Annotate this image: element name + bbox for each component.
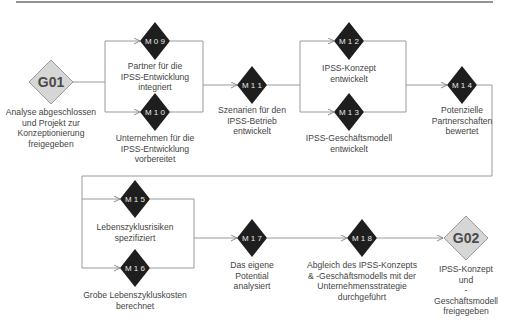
milestone-m17-label: Das eigene Potential analysiert — [230, 260, 273, 292]
milestone-m15[interactable]: M 1 5 — [120, 180, 150, 218]
milestone-m11-label: Szenarien für den IPSS-Betrieb entwickel… — [218, 105, 286, 137]
milestone-m15-label: Lebenszyklusrisiken spezifiziert — [97, 222, 174, 243]
milestone-m18-label: Abgleich des IPSS-Konzepts & -Geschäftsm… — [307, 260, 417, 302]
milestone-m12-code: M 1 2 — [339, 37, 360, 46]
milestone-m13-code: M 1 3 — [339, 108, 360, 117]
milestone-m12-label: IPSS-Konzept entwickelt — [322, 63, 376, 84]
gate-g01-code: G01 — [38, 74, 65, 90]
gate-g01[interactable]: G01 — [29, 60, 73, 104]
milestone-m17[interactable]: M 1 7 — [237, 219, 267, 257]
milestone-m18[interactable]: M 1 8 — [347, 219, 377, 257]
milestone-m11[interactable]: M 1 1 — [237, 66, 267, 104]
milestone-m14-code: M 1 4 — [452, 81, 473, 90]
milestone-m10-label: Unternehmen für die IPSS-Entwicklung vor… — [116, 133, 194, 165]
milestone-m13-label: IPSS-Geschäftsmodell entwickelt — [306, 133, 392, 154]
milestone-m10-code: M 1 0 — [145, 108, 166, 117]
milestone-m16-code: M 1 6 — [125, 264, 146, 273]
gate-g02-label: IPSS-Konzept und -Geschäftsmodell freige… — [434, 264, 498, 317]
gate-g02-code: G02 — [453, 230, 480, 246]
milestone-m18-code: M 1 8 — [352, 234, 373, 243]
milestone-m11-code: M 1 1 — [242, 81, 263, 90]
milestone-m12[interactable]: M 1 2 — [334, 22, 364, 60]
milestone-m14-label: Potenzielle Partnerschaften bewertet — [432, 105, 493, 137]
gate-g01-label: Analyse abgeschlossen und Projekt zur Ko… — [6, 107, 96, 149]
milestone-m13[interactable]: M 1 3 — [334, 93, 364, 131]
milestone-m09-code: M 0 9 — [145, 37, 166, 46]
gate-g02[interactable]: G02 — [444, 216, 488, 260]
milestone-m09[interactable]: M 0 9 — [140, 22, 170, 60]
milestone-m17-code: M 1 7 — [242, 234, 263, 243]
milestone-m16-label: Grobe Lebenszykluskosten berechnet — [83, 290, 187, 311]
milestone-m16[interactable]: M 1 6 — [120, 249, 150, 287]
milestone-m09-label: Partner für die IPSS-Entwicklung integri… — [121, 61, 189, 93]
milestone-m15-code: M 1 5 — [125, 195, 146, 204]
milestone-m14[interactable]: M 1 4 — [447, 66, 477, 104]
milestone-m10[interactable]: M 1 0 — [140, 93, 170, 131]
